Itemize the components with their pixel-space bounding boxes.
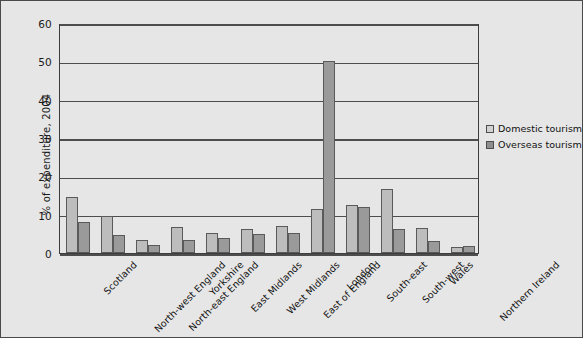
gridline-50 (60, 63, 478, 64)
bar (136, 240, 148, 253)
bar (113, 235, 125, 253)
legend: Domestic tourismOverseas tourism (486, 123, 582, 155)
bar (358, 207, 370, 253)
bar-group (135, 240, 161, 253)
x-tick-northern-ireland: Northern Ireland (497, 259, 561, 323)
bar (416, 228, 428, 253)
legend-item: Overseas tourism (486, 139, 582, 150)
gridline-20 (60, 178, 478, 179)
legend-label: Overseas tourism (498, 139, 582, 150)
legend-label: Domestic tourism (498, 123, 582, 134)
bar-group (240, 229, 266, 253)
gridline-40 (60, 101, 478, 102)
bar (428, 241, 440, 253)
x-tick-scotland: Scotland (101, 259, 139, 297)
bar-group (345, 205, 371, 253)
bar-group (310, 61, 336, 253)
bar (276, 226, 288, 253)
bar (346, 205, 358, 253)
bar (393, 229, 405, 253)
chart-figure: % of expenditure, 2004 0102030405060 Sco… (0, 0, 583, 338)
bar (463, 246, 475, 253)
gridline-60 (60, 24, 478, 25)
bar (183, 240, 195, 253)
bar (66, 197, 78, 253)
y-tick-0: 0 (12, 248, 52, 260)
y-tick-30: 30 (12, 133, 52, 145)
bar-group (65, 197, 91, 253)
bar-group (380, 189, 406, 253)
bar (206, 233, 218, 253)
y-tick-10: 10 (12, 210, 52, 222)
y-tick-20: 20 (12, 171, 52, 183)
bar (311, 209, 323, 253)
bar-group (275, 226, 301, 253)
bar (241, 229, 253, 253)
legend-swatch-icon (486, 125, 494, 133)
bar (323, 61, 335, 253)
bar (148, 245, 160, 253)
bar-group (100, 216, 126, 253)
bar-group (450, 246, 476, 253)
bar (451, 247, 463, 253)
gridline-0 (60, 254, 478, 255)
bar-group (415, 228, 441, 253)
legend-swatch-icon (486, 141, 494, 149)
bar (288, 233, 300, 253)
plot-area (59, 24, 479, 254)
bar (78, 222, 90, 253)
bar (381, 189, 393, 253)
legend-item: Domestic tourism (486, 123, 582, 134)
bar-group (205, 233, 231, 253)
bar (101, 216, 113, 253)
bar (253, 234, 265, 253)
y-tick-60: 60 (12, 18, 52, 30)
y-tick-40: 40 (12, 95, 52, 107)
bar-group (170, 227, 196, 253)
bar (218, 238, 230, 253)
y-tick-50: 50 (12, 56, 52, 68)
bar (171, 227, 183, 253)
gridline-30 (60, 139, 478, 140)
